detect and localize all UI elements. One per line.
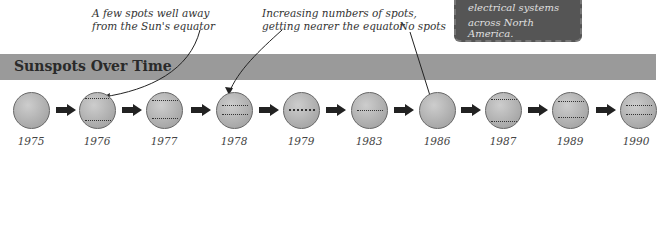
arrow-right-icon	[528, 104, 548, 116]
sun-1986	[419, 92, 456, 129]
year-label: 1976	[77, 135, 117, 147]
sun-1977	[146, 92, 183, 129]
year-label: 1977	[144, 135, 184, 147]
year-label: 1990	[616, 135, 656, 147]
year-label: 1975	[11, 135, 51, 147]
sun-1975	[13, 92, 50, 129]
sun-1979	[283, 92, 320, 129]
sun-1976	[79, 92, 116, 129]
arrow-right-icon	[596, 104, 616, 116]
year-label: 1978	[214, 135, 254, 147]
arrow-right-icon	[326, 104, 346, 116]
year-label: 1989	[550, 135, 590, 147]
arrow-right-icon	[122, 104, 142, 116]
year-label: 1979	[281, 135, 321, 147]
year-label: 1986	[417, 135, 457, 147]
sun-1978	[216, 92, 253, 129]
sun-1989	[552, 92, 589, 129]
sun-1990	[620, 92, 657, 129]
year-label: 1983	[349, 135, 389, 147]
arrow-right-icon	[259, 104, 279, 116]
sun-1983	[351, 92, 388, 129]
arrow-right-icon	[461, 104, 481, 116]
arrow-right-icon	[56, 104, 76, 116]
arrow-right-icon	[191, 104, 211, 116]
arrow-right-icon	[394, 104, 414, 116]
year-label: 1987	[483, 135, 523, 147]
sun-1987	[485, 92, 522, 129]
